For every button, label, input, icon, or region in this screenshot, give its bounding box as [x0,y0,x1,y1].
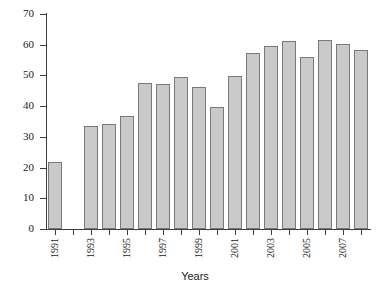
bar [246,53,260,229]
bar [48,162,62,229]
bar-chart: 010203040506070 199119931995199719992001… [0,0,390,291]
bar [210,107,224,229]
x-axis-tick [163,230,164,235]
y-axis-tick-label: 30 [0,131,34,142]
y-axis-tick-label: 0 [0,223,34,234]
x-axis-tick-label: 1997 [158,238,168,258]
y-axis-tick [40,75,46,76]
x-axis-tick [91,230,92,235]
bar [192,87,206,229]
x-axis-tick-label: 1999 [194,238,204,258]
x-axis-tick-label: 2003 [266,238,276,258]
y-axis-tick-label: 50 [0,69,34,80]
x-axis-tick [343,230,344,235]
x-axis-tick [109,230,110,235]
x-axis-tick [217,230,218,235]
y-axis-tick [40,137,46,138]
x-axis-tick [127,230,128,235]
y-axis-tick [40,168,46,169]
x-axis-tick [181,230,182,235]
bar [354,50,368,229]
y-axis-tick [40,229,46,230]
y-axis-tick [40,106,46,107]
y-axis-tick-label: 10 [0,192,34,203]
bar [336,44,350,229]
x-axis-tick [289,230,290,235]
x-axis-tick-label: 1995 [122,238,132,258]
x-axis-tick-label: 1993 [86,238,96,258]
y-axis-tick-labels: 010203040506070 [0,0,38,291]
x-axis-tick [55,230,56,235]
y-axis-tick-label: 40 [0,100,34,111]
bar [102,124,116,229]
bar [282,41,296,229]
x-axis-tick-label: 2001 [230,238,240,258]
plot-area [46,14,370,229]
y-axis-tick-label: 70 [0,8,34,19]
bar [300,57,314,229]
bar [156,84,170,229]
bar [174,77,188,229]
x-axis-tick [145,230,146,235]
bar [264,46,278,229]
x-axis-tick [271,230,272,235]
x-axis-tick [307,230,308,235]
x-axis-line [46,229,371,230]
x-axis-tick-label: 2005 [302,238,312,258]
x-axis-tick [253,230,254,235]
y-axis-tick [40,45,46,46]
x-axis-tick-label: 2007 [338,238,348,258]
x-axis-tick [199,230,200,235]
x-axis-tick [235,230,236,235]
y-axis-tick [40,14,46,15]
x-axis-tick-label: 1991 [50,238,60,258]
x-axis-tick [325,230,326,235]
bar [138,83,152,229]
bar [228,76,242,229]
bar [120,116,134,229]
y-axis-tick [40,198,46,199]
y-axis-tick-label: 20 [0,162,34,173]
bar [318,40,332,229]
y-axis-tick-label: 60 [0,39,34,50]
bar [84,126,98,229]
x-axis-tick [73,230,74,235]
x-axis-tick [361,230,362,235]
x-axis-title: Years [0,270,390,282]
